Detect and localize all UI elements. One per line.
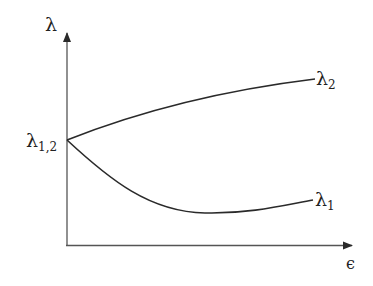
y-axis-label: λ [45,13,57,35]
degenerate-label-base: λ [26,129,38,151]
curve-lambda-1 [67,140,313,213]
lambda-1-label-subscript: 1 [327,199,335,213]
lambda-1-label-base: λ [315,188,327,210]
curve-lambda-2 [67,79,315,140]
degenerate-point-label: λ1,2 [26,129,57,154]
lambda-2-label-base: λ [316,67,328,89]
diagram-canvas: λ ϵ λ1,2 λ2 λ1 [0,0,373,286]
lambda-2-label: λ2 [316,67,336,92]
eigenvalue-diagram: λ ϵ λ1,2 λ2 λ1 [0,0,373,286]
lambda-2-label-subscript: 2 [328,78,336,92]
degenerate-label-subscript: 1,2 [38,140,57,154]
x-axis-label: ϵ [346,254,355,273]
lambda-1-label: λ1 [315,188,335,213]
